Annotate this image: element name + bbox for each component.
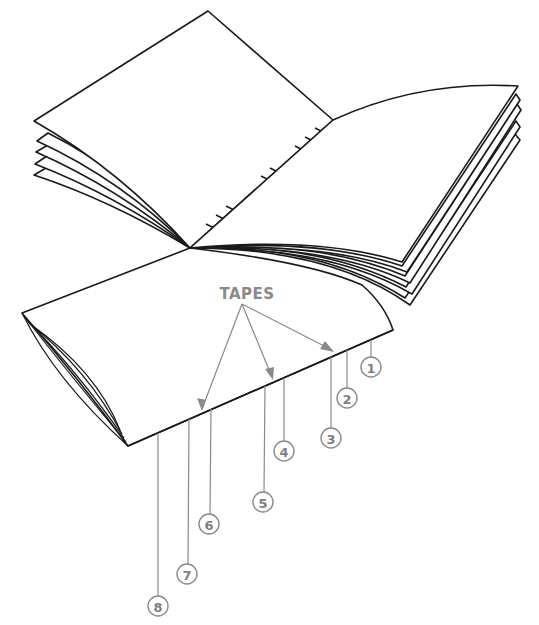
leader-line-7	[188, 419, 189, 564]
svg-text:6: 6	[204, 518, 213, 533]
folded-signature	[22, 248, 393, 446]
callout-7: 7	[177, 564, 197, 584]
callout-8: 8	[148, 596, 168, 616]
callout-1: 1	[361, 357, 381, 377]
svg-text:4: 4	[279, 445, 288, 460]
signature-face	[22, 248, 393, 446]
book-binding-diagram: TAPES 1 2 3	[0, 0, 539, 625]
callout-5: 5	[253, 492, 273, 512]
tapes-label: TAPES	[219, 285, 274, 303]
svg-text:5: 5	[258, 496, 267, 511]
callout-3: 3	[321, 428, 341, 448]
svg-text:2: 2	[342, 392, 351, 407]
svg-text:1: 1	[366, 361, 375, 376]
callout-6: 6	[199, 514, 219, 534]
leader-line-6	[210, 409, 211, 514]
callout-2: 2	[337, 388, 357, 408]
callout-4: 4	[274, 441, 294, 461]
svg-text:7: 7	[182, 568, 191, 583]
svg-text:3: 3	[326, 432, 335, 447]
svg-text:8: 8	[153, 600, 162, 615]
leader-line-5	[264, 386, 265, 492]
